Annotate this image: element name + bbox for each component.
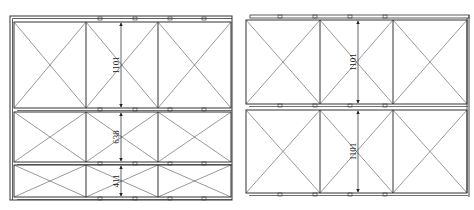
hinge-tab: [313, 15, 317, 18]
hinge-tab: [383, 15, 387, 18]
hinge-tab: [278, 15, 282, 18]
door-row-2: [14, 112, 231, 162]
dimension-label: 1101: [348, 143, 358, 161]
dimension-label: 638: [111, 130, 121, 144]
hinge-tab: [348, 15, 352, 18]
right-elevation: 11011101: [246, 15, 469, 197]
dimension-label: 1101: [111, 56, 121, 74]
left-elevation: 1101638411: [10, 16, 232, 200]
dimension-label: 1101: [348, 53, 358, 71]
dimension-label: 411: [111, 174, 121, 187]
door-row-1: [14, 22, 231, 108]
cabinet-elevation-drawing: 1101638411 11011101: [0, 0, 474, 210]
top-rail: [250, 15, 469, 18]
